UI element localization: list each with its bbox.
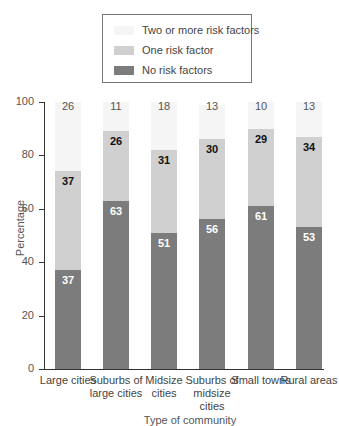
bar-value-label: 53: [296, 231, 322, 243]
chart-legend: Two or more risk factors One risk factor…: [102, 14, 252, 83]
bar-segment-none: [199, 219, 225, 369]
bar-value-label: 26: [55, 100, 81, 112]
bar-value-label: 56: [199, 223, 225, 235]
bar-value-label: 10: [248, 100, 274, 112]
y-tick-label: 40: [0, 255, 34, 267]
legend-label: No risk factors: [142, 64, 212, 76]
y-tick-label: 0: [0, 362, 34, 374]
y-axis: [44, 102, 45, 370]
bar-segment-none: [151, 233, 177, 369]
bar-segment-none: [103, 201, 129, 369]
legend-swatch-none: [114, 66, 134, 75]
x-axis-label: Type of community: [130, 414, 250, 426]
bar-value-label: 18: [151, 100, 177, 112]
bar-segment-none: [296, 227, 322, 369]
x-category-label: Rural areas: [279, 374, 339, 387]
bar-segment-none: [248, 206, 274, 369]
y-tick-label: 60: [0, 202, 34, 214]
bar-value-label: 30: [199, 143, 225, 155]
legend-label: One risk factor: [142, 44, 214, 56]
bar-segment-two: [55, 102, 81, 171]
legend-item-none: No risk factors: [114, 63, 212, 77]
x-axis: [44, 369, 324, 370]
legend-label: Two or more risk factors: [142, 24, 259, 36]
bar-value-label: 37: [55, 175, 81, 187]
y-tick-label: 80: [0, 148, 34, 160]
legend-swatch-one: [114, 46, 134, 55]
bar-value-label: 11: [103, 100, 129, 112]
bar-value-label: 29: [248, 133, 274, 145]
legend-item-two-or-more: Two or more risk factors: [114, 23, 259, 37]
bar-value-label: 63: [103, 205, 129, 217]
bar-value-label: 51: [151, 237, 177, 249]
bar-value-label: 13: [199, 100, 225, 112]
legend-swatch-two-or-more: [114, 26, 134, 35]
bar-value-label: 37: [55, 274, 81, 286]
legend-item-one: One risk factor: [114, 43, 214, 57]
bar-value-label: 31: [151, 154, 177, 166]
y-tick-label: 100: [0, 95, 34, 107]
bar-value-label: 61: [248, 210, 274, 222]
bar-value-label: 13: [296, 100, 322, 112]
bar-value-label: 26: [103, 135, 129, 147]
bar-value-label: 34: [296, 141, 322, 153]
y-tick-label: 20: [0, 309, 34, 321]
